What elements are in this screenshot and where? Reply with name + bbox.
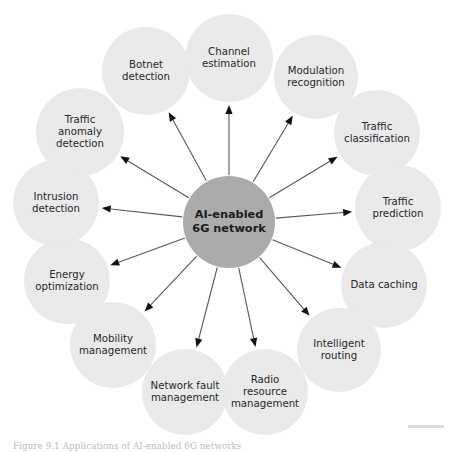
node-label: prediction — [372, 208, 423, 219]
spoke-line — [151, 256, 197, 305]
spoke-line — [253, 123, 288, 181]
node-label: optimization — [35, 281, 98, 292]
arrow-head-icon — [195, 338, 202, 348]
spoke-data-caching — [273, 240, 342, 268]
arrow-head-icon — [110, 259, 120, 266]
node-label: resource — [243, 386, 287, 397]
spoke-line — [260, 258, 304, 309]
spoke-line — [173, 120, 206, 181]
spoke-mobility-management — [145, 256, 197, 311]
node-label: detection — [32, 203, 80, 214]
node-label: estimation — [202, 58, 256, 69]
node-label: Radio — [251, 374, 280, 385]
node-radio-resource-management[interactable]: Radioresourcemanagement — [222, 349, 308, 435]
radial-diagram: ChannelestimationModulationrecognitionTr… — [0, 0, 458, 452]
node-label: Energy — [49, 269, 85, 280]
node-label: Data caching — [350, 279, 417, 290]
node-traffic-classification[interactable]: Trafficclassification — [334, 90, 420, 176]
hub-node[interactable]: AI-enabled6G network — [183, 176, 275, 268]
arrow-head-icon — [285, 116, 293, 126]
node-label: anomaly — [58, 126, 102, 137]
node-label: routing — [321, 350, 357, 361]
spoke-radio-resource-management — [239, 268, 257, 347]
spoke-line — [269, 161, 330, 197]
spoke-intelligent-routing — [260, 258, 310, 316]
node-channel-estimation[interactable]: Channelestimation — [185, 14, 273, 102]
arrow-head-icon — [332, 261, 342, 268]
spoke-traffic-prediction — [276, 209, 352, 218]
spoke-line — [273, 240, 334, 265]
spoke-line — [199, 268, 217, 339]
node-label: Botnet — [129, 59, 163, 70]
spoke-energy-optimization — [110, 238, 185, 265]
figure-root: ChannelestimationModulationrecognitionTr… — [0, 0, 458, 452]
node-label: Traffic — [382, 196, 414, 207]
spoke-line — [128, 161, 189, 198]
hub-layer: AI-enabled6G network — [183, 176, 275, 268]
node-label: Channel — [208, 46, 250, 57]
spoke-network-fault-management — [195, 268, 217, 348]
spoke-traffic-anomaly-detection — [120, 156, 189, 197]
arrow-head-icon — [328, 157, 338, 165]
hub-label: AI-enabled — [195, 208, 264, 221]
spoke-channel-estimation — [225, 105, 232, 175]
spoke-line — [111, 209, 183, 217]
arrow-head-icon — [120, 156, 130, 164]
node-label: management — [151, 392, 219, 403]
spoke-intrusion-detection — [102, 205, 183, 216]
node-label: Network fault — [151, 380, 220, 391]
spoke-botnet-detection — [169, 112, 207, 181]
node-energy-optimization[interactable]: Energyoptimization — [24, 238, 110, 324]
node-label: Modulation — [288, 65, 345, 76]
hub-label: 6G network — [192, 222, 266, 235]
node-botnet-detection[interactable]: Botnetdetection — [102, 27, 190, 115]
node-traffic-prediction[interactable]: Trafficprediction — [355, 165, 441, 251]
node-network-fault-management[interactable]: Network faultmanagement — [142, 349, 228, 435]
node-label: Intelligent — [313, 338, 364, 349]
node-label: detection — [122, 71, 170, 82]
node-traffic-anomaly-detection[interactable]: Trafficanomalydetection — [36, 88, 124, 176]
node-label: management — [79, 345, 147, 356]
arrow-head-icon — [169, 112, 176, 122]
node-label: Traffic — [64, 114, 96, 125]
node-label: detection — [56, 138, 104, 149]
node-label: Mobility — [93, 333, 133, 344]
corner-mark — [408, 425, 444, 428]
spoke-line — [239, 268, 254, 338]
spoke-traffic-classification — [269, 157, 337, 198]
spoke-line — [276, 213, 343, 219]
node-label: management — [231, 398, 299, 409]
node-intelligent-routing[interactable]: Intelligentrouting — [297, 308, 381, 392]
arrow-head-icon — [225, 105, 232, 114]
spoke-modulation-recognition — [253, 116, 293, 182]
arrow-head-icon — [250, 337, 257, 347]
node-label: recognition — [287, 77, 344, 88]
figure-caption: Figure 9.1 Applications of AI-enabled 6G… — [13, 440, 443, 452]
node-label: Intrusion — [34, 191, 79, 202]
arrow-head-icon — [343, 209, 352, 216]
arrow-head-icon — [102, 205, 111, 212]
spoke-line — [119, 238, 185, 262]
node-label: classification — [344, 133, 410, 144]
node-label: Traffic — [361, 121, 393, 132]
